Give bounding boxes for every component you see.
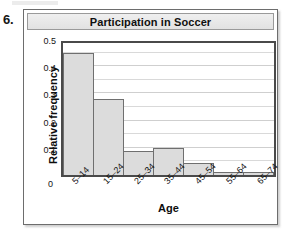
y-axis-tick-label: 0.4 <box>43 63 56 73</box>
x-axis-title: Age <box>61 202 276 214</box>
bar-series <box>63 43 274 175</box>
y-axis-tick-labels: 0.10.20.30.40.5 <box>24 41 59 177</box>
y-axis-tick-label: 0.2 <box>43 118 56 128</box>
chart-container: Participation in Soccer Relative frequen… <box>23 9 278 225</box>
y-axis-tick-label: 0.5 <box>43 36 56 46</box>
y-axis-tick-label: 0.1 <box>43 145 56 155</box>
chart-title: Participation in Soccer <box>90 16 212 28</box>
chart-figure: 6. Participation in Soccer Relative freq… <box>0 0 286 234</box>
question-number: 6. <box>3 12 13 27</box>
y-axis-zero-label: 0 <box>48 179 53 189</box>
y-axis-tick-label: 0.3 <box>43 90 56 100</box>
scan-artifact <box>12 1 58 5</box>
bar <box>63 53 94 175</box>
chart-title-banner: Participation in Soccer <box>27 13 274 30</box>
plot-area <box>61 41 276 177</box>
